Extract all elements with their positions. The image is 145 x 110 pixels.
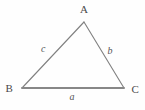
vertex-label-c: C <box>132 84 139 95</box>
vertex-label-b: B <box>6 83 13 94</box>
side-label-c: c <box>41 44 45 54</box>
triangle-side-c-line <box>22 22 84 88</box>
vertex-label-a: A <box>80 4 88 15</box>
side-label-a: a <box>70 92 75 102</box>
triangle-side-b-line <box>84 22 124 88</box>
side-label-b: b <box>108 46 113 56</box>
triangle-figure: A B C a b c <box>0 0 145 110</box>
